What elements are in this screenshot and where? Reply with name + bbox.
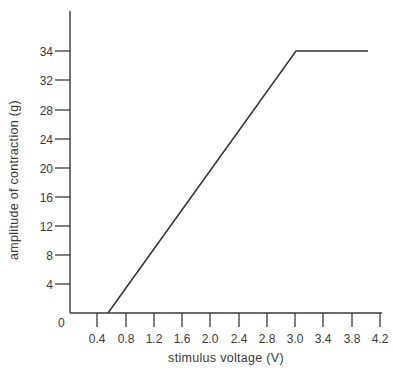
x-tick-label: 0.8 (118, 332, 135, 346)
data-series (108, 51, 368, 313)
y-tick-label: 4 (46, 278, 53, 292)
x-axis-title: stimulus voltage (V) (168, 351, 284, 365)
x-tick-label: 4.2 (372, 332, 389, 346)
y-axis-title: amplitude of contraction (g) (7, 100, 21, 260)
y-tick-label: 32 (40, 74, 54, 88)
x-tick-label: 1.6 (174, 332, 191, 346)
y-tick-label: 28 (40, 104, 54, 118)
line-chart: 0.40.81.21.62.02.42.83.03.43.84.2 481216… (0, 0, 393, 382)
y-tick-label: 20 (40, 162, 54, 176)
y-tick-label: 8 (46, 249, 53, 263)
x-tick-label: 3.8 (344, 332, 361, 346)
x-tick-label: 2.0 (202, 332, 219, 346)
y-tick-label: 34 (40, 45, 54, 59)
series-line (108, 51, 368, 313)
x-tick-label: 1.2 (146, 332, 163, 346)
x-tick-label: 0.4 (89, 332, 106, 346)
axes (70, 11, 382, 313)
origin-label: 0 (58, 316, 65, 330)
x-tick-label: 2.4 (231, 332, 248, 346)
x-tick-label: 3.0 (287, 332, 304, 346)
x-axis-ticks: 0.40.81.21.62.02.42.83.03.43.84.2 (89, 313, 389, 346)
y-tick-label: 24 (40, 133, 54, 147)
y-axis-ticks: 4812162024283234 (40, 45, 70, 292)
x-tick-label: 2.8 (259, 332, 276, 346)
x-tick-label: 3.4 (315, 332, 332, 346)
y-tick-label: 16 (40, 191, 54, 205)
y-tick-label: 12 (40, 220, 54, 234)
